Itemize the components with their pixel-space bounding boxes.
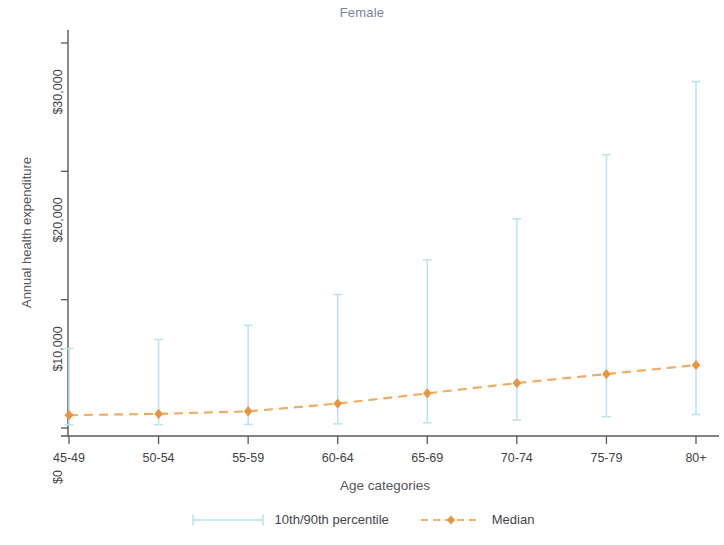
chart-figure: Female Annual health expenditure $0$10,0… [0,0,724,545]
median-marker [333,398,342,408]
x-axis-title: Age categories [60,478,710,493]
median-marker [513,378,522,388]
y-tick-label: $10,000 [51,299,65,399]
x-tick-label: 50-54 [143,451,175,465]
percentile-swatch-icon [190,513,266,527]
x-tick-label: 45-49 [53,451,85,465]
x-tick-label: 65-69 [411,451,443,465]
median-marker [692,360,701,370]
median-marker [244,406,253,416]
median-marker [154,409,163,419]
x-tick-label: 70-74 [501,451,533,465]
legend-label-percentile: 10th/90th percentile [275,512,389,527]
median-line [69,365,696,415]
median-marker [65,410,74,420]
x-tick-label: 75-79 [590,451,622,465]
y-tick-label: $20,000 [51,170,65,270]
x-tick-marks [69,436,696,444]
x-tick-label: 80+ [685,451,706,465]
median-markers [65,360,701,420]
x-tick-label: 60-64 [322,451,354,465]
median-marker [423,388,432,398]
median-polyline [69,365,696,415]
median-marker [602,369,611,379]
median-swatch-icon [419,513,483,527]
legend-item-percentile[interactable]: 10th/90th percentile [190,512,389,527]
chart-legend: 10th/90th percentile Median [0,512,724,527]
legend-label-median: Median [492,512,535,527]
y-tick-label: $30,000 [51,42,65,142]
legend-item-median[interactable]: Median [419,512,535,527]
x-tick-label: 55-59 [232,451,264,465]
whisker [512,219,521,420]
